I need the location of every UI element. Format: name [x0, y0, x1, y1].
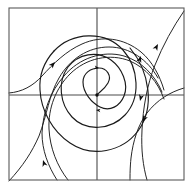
equilibrium-point	[95, 93, 98, 96]
phase-portrait-canvas	[0, 0, 193, 189]
phase-portrait-figure	[0, 0, 193, 189]
